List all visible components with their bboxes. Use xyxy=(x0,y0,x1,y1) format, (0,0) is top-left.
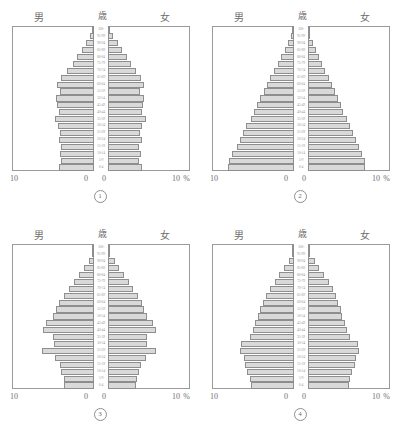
axis-labels-4: 10 0 0 10 % xyxy=(212,392,390,404)
axis-left-zero: 0 xyxy=(284,174,288,183)
age-group-label: 50-54 xyxy=(294,313,307,320)
female-plot-frame xyxy=(308,244,390,389)
female-label: 女 xyxy=(360,9,370,24)
age-group-label: 5-9 xyxy=(94,157,107,164)
age-group-label: 80-84 xyxy=(294,272,307,279)
figure-number-circle: 2 xyxy=(294,190,307,203)
axis-right-max: 10 xyxy=(172,392,180,401)
age-group-label: 25-29 xyxy=(294,347,307,354)
age-group-labels-1: 100-95-9990-9485-8980-8475-7970-7465-696… xyxy=(94,26,108,171)
female-label: 女 xyxy=(160,227,170,242)
axis-right-zero: 0 xyxy=(302,174,306,183)
male-plot-frame xyxy=(212,244,294,389)
male-label: 男 xyxy=(234,9,244,24)
age-group-label: 55-59 xyxy=(294,88,307,95)
age-group-label: 45-49 xyxy=(94,102,107,109)
figure-number-circle: 1 xyxy=(94,190,107,203)
axis-right-max: 10 xyxy=(172,174,180,183)
age-group-label: 10-14 xyxy=(294,368,307,375)
age-group-label: 30-34 xyxy=(294,340,307,347)
axis-right-zero: 0 xyxy=(102,174,106,183)
figure-number-4: 4 xyxy=(200,408,400,421)
age-group-label: 60-64 xyxy=(294,299,307,306)
age-group-label: 75-79 xyxy=(294,278,307,285)
population-pyramid-panel-1: 男 歳 女 100-95-9990-9485-8980-8475-7970-74… xyxy=(0,0,200,218)
age-group-label: 85-89 xyxy=(294,47,307,54)
age-group-label: 50-54 xyxy=(94,95,107,102)
female-label: 女 xyxy=(160,9,170,24)
female-label: 女 xyxy=(360,227,370,242)
female-plot-frame xyxy=(108,26,190,171)
plot-area-2: 100-95-9990-9485-8980-8475-7970-7465-696… xyxy=(212,26,390,171)
pyramid-chart-grid: 男 歳 女 100-95-9990-9485-8980-8475-7970-74… xyxy=(0,0,400,436)
axis-labels-1: 10 0 0 10 % xyxy=(12,174,190,186)
age-group-label: 75-79 xyxy=(94,60,107,67)
age-group-label: 90-94 xyxy=(294,40,307,47)
axis-right-zero: 0 xyxy=(102,392,106,401)
age-group-label: 90-94 xyxy=(294,258,307,265)
age-group-label: 15-19 xyxy=(94,143,107,150)
age-group-label: 65-69 xyxy=(294,292,307,299)
age-group-label: 80-84 xyxy=(294,54,307,61)
figure-number-2: 2 xyxy=(200,190,400,203)
figure-number-circle: 3 xyxy=(94,408,107,421)
population-pyramid-panel-3: 男 歳 女 100-95-9990-9485-8980-8475-7970-74… xyxy=(0,218,200,436)
population-pyramid-panel-2: 男 歳 女 100-95-9990-9485-8980-8475-7970-74… xyxy=(200,0,400,218)
age-group-label: 0-4 xyxy=(294,164,307,171)
age-group-label: 35-39 xyxy=(294,116,307,123)
age-group-label: 35-39 xyxy=(294,334,307,341)
population-pyramid-panel-4: 男 歳 女 100-95-9990-9485-8980-8475-7970-74… xyxy=(200,218,400,436)
age-group-label: 0-4 xyxy=(94,164,107,171)
axis-percent-sign: % xyxy=(183,392,190,401)
age-group-label: 55-59 xyxy=(294,306,307,313)
age-group-label: 50-54 xyxy=(94,313,107,320)
age-group-label: 10-14 xyxy=(94,368,107,375)
plot-area-1: 100-95-9990-9485-8980-8475-7970-7465-696… xyxy=(12,26,190,171)
age-group-label: 60-64 xyxy=(294,81,307,88)
age-group-labels-2: 100-95-9990-9485-8980-8475-7970-7465-696… xyxy=(294,26,308,171)
age-group-label: 35-39 xyxy=(94,116,107,123)
age-group-label: 100- xyxy=(294,244,307,251)
female-plot-frame xyxy=(308,26,390,171)
axis-left-max: 10 xyxy=(210,392,218,401)
age-group-label: 90-94 xyxy=(94,258,107,265)
age-group-label: 0-4 xyxy=(94,382,107,389)
age-group-label: 20-24 xyxy=(294,354,307,361)
age-group-label: 55-59 xyxy=(94,88,107,95)
figure-number-1: 1 xyxy=(0,190,200,203)
axis-right-zero: 0 xyxy=(302,392,306,401)
age-group-label: 80-84 xyxy=(94,272,107,279)
age-group-label: 45-49 xyxy=(294,102,307,109)
age-group-label: 90-94 xyxy=(94,40,107,47)
age-group-label: 60-64 xyxy=(94,81,107,88)
age-group-label: 30-34 xyxy=(94,340,107,347)
age-group-labels-4: 100-95-9990-9485-8980-8475-7970-7465-696… xyxy=(294,244,308,389)
age-group-label: 60-64 xyxy=(94,299,107,306)
axis-labels-3: 10 0 0 10 % xyxy=(12,392,190,404)
panel-header-3: 男 歳 女 xyxy=(12,227,190,243)
age-group-label: 30-34 xyxy=(94,122,107,129)
male-plot-frame xyxy=(12,244,94,389)
age-group-label: 70-74 xyxy=(294,285,307,292)
age-group-label: 75-79 xyxy=(94,278,107,285)
age-group-label: 85-89 xyxy=(94,47,107,54)
axis-left-max: 10 xyxy=(210,174,218,183)
age-group-label: 25-29 xyxy=(294,129,307,136)
age-group-label: 5-9 xyxy=(294,157,307,164)
age-group-label: 95-99 xyxy=(294,251,307,258)
age-group-label: 65-69 xyxy=(94,292,107,299)
age-group-label: 95-99 xyxy=(94,251,107,258)
age-axis-label: 歳 xyxy=(298,227,307,240)
plot-area-3: 100-95-9990-9485-8980-8475-7970-7465-696… xyxy=(12,244,190,389)
age-group-label: 5-9 xyxy=(294,375,307,382)
age-group-label: 40-44 xyxy=(294,109,307,116)
age-group-label: 70-74 xyxy=(94,285,107,292)
age-group-label: 0-4 xyxy=(294,382,307,389)
age-group-label: 15-19 xyxy=(294,143,307,150)
axis-left-zero: 0 xyxy=(84,174,88,183)
age-group-label: 45-49 xyxy=(294,320,307,327)
axis-labels-2: 10 0 0 10 % xyxy=(212,174,390,186)
age-axis-label: 歳 xyxy=(298,9,307,22)
axis-right-max: 10 xyxy=(372,174,380,183)
age-group-label: 80-84 xyxy=(94,54,107,61)
